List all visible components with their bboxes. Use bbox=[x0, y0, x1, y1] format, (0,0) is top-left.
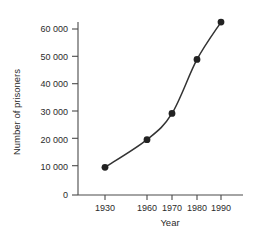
x-tick-label: 1980 bbox=[187, 203, 207, 213]
data-point-marker bbox=[144, 136, 151, 143]
x-tick-label: 1960 bbox=[137, 203, 157, 213]
x-axis-title: Year bbox=[160, 217, 179, 228]
y-tick-label: 50 000 bbox=[40, 52, 68, 62]
y-axis-title: Number of prisoners bbox=[11, 69, 22, 155]
y-tick-label: 0 bbox=[63, 190, 68, 200]
data-point-marker bbox=[169, 110, 176, 117]
x-tick-label: 1930 bbox=[95, 203, 115, 213]
y-tick-label: 60 000 bbox=[40, 24, 68, 34]
x-tick-label: 1990 bbox=[211, 203, 231, 213]
data-line bbox=[105, 22, 221, 167]
data-point-marker bbox=[194, 56, 201, 63]
data-point-marker bbox=[102, 164, 109, 171]
data-point-marker bbox=[218, 19, 225, 26]
chart-container: Number of prisoners 60 000 50 000 40 000… bbox=[0, 0, 255, 237]
line-chart: Number of prisoners 60 000 50 000 40 000… bbox=[0, 0, 255, 237]
y-tick-label: 20 000 bbox=[40, 135, 68, 145]
y-tick-label: 30 000 bbox=[40, 107, 68, 117]
data-series bbox=[102, 19, 225, 171]
x-tick-label: 1970 bbox=[162, 203, 182, 213]
y-tick-label: 40 000 bbox=[40, 79, 68, 89]
y-tick-label: 10 000 bbox=[40, 162, 68, 172]
